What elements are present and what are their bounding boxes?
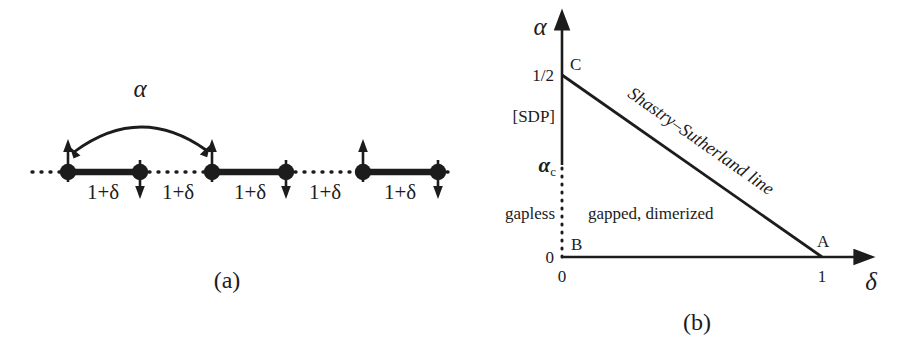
annotation-sdp: [SDP]	[512, 107, 555, 126]
alpha-coupling-arc	[70, 127, 210, 159]
site-dot-6	[430, 164, 446, 180]
x-tick-label-one: 1	[818, 267, 827, 286]
bond-label-5: 1+δ	[384, 180, 416, 204]
site-dot-2	[132, 164, 148, 180]
figure-root: α 1+δ 1+δ 1+δ 1+δ 1+δ (a)	[0, 0, 903, 353]
x-tick-label-zero: 0	[558, 267, 567, 286]
site-dot-1	[60, 164, 76, 180]
x-axis-label: δ	[865, 268, 877, 295]
annotation-gapless: gapless	[505, 204, 555, 223]
alpha-c-subscript: c	[550, 164, 556, 179]
annotation-gapped-dimerized: gapped, dimerized	[588, 204, 714, 223]
annotation-shastry-sutherland-line: Shastry–Sutherland line	[624, 83, 778, 199]
alpha-coupling-label: α	[133, 75, 147, 102]
alpha-c-glyph: α	[539, 153, 551, 177]
bond-label-4: 1+δ	[309, 180, 341, 204]
point-label-B: B	[571, 235, 582, 254]
site-dot-4	[278, 164, 294, 180]
panel-b-phase-diagram: α δ 1/2 0 αc 0 1 C B A [SDP] gapless gap…	[451, 0, 903, 353]
panel-b-caption: (b)	[683, 309, 711, 335]
site-dot-5	[355, 164, 371, 180]
bond-label-1: 1+δ	[87, 180, 119, 204]
panel-a-caption: (a)	[214, 267, 241, 293]
point-label-A: A	[817, 232, 830, 251]
y-tick-label-alpha-c: αc	[539, 153, 557, 179]
y-tick-label-zero: 0	[546, 248, 555, 267]
bond-label-3: 1+δ	[234, 180, 266, 204]
panel-a-spin-chain: α 1+δ 1+δ 1+δ 1+δ 1+δ (a)	[0, 0, 451, 353]
y-tick-label-half: 1/2	[532, 66, 554, 85]
shastry-sutherland-line	[562, 75, 822, 257]
y-axis-label: α	[533, 13, 547, 40]
site-dot-3	[204, 164, 220, 180]
point-label-C: C	[570, 55, 581, 74]
panel-a-canvas: α 1+δ 1+δ 1+δ 1+δ 1+δ (a)	[0, 0, 451, 353]
panel-b-canvas: α δ 1/2 0 αc 0 1 C B A [SDP] gapless gap…	[451, 0, 903, 353]
bond-label-2: 1+δ	[162, 180, 194, 204]
